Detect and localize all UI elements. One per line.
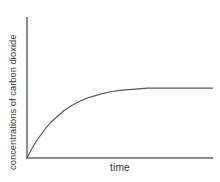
data-series-curve	[27, 88, 213, 158]
y-axis-label: concentrations of carbon dioxide	[6, 10, 21, 170]
chart-figure: concentrations of carbon dioxide time	[0, 0, 220, 182]
chart-plot-area	[0, 0, 220, 182]
x-axis-label: time	[27, 162, 213, 173]
